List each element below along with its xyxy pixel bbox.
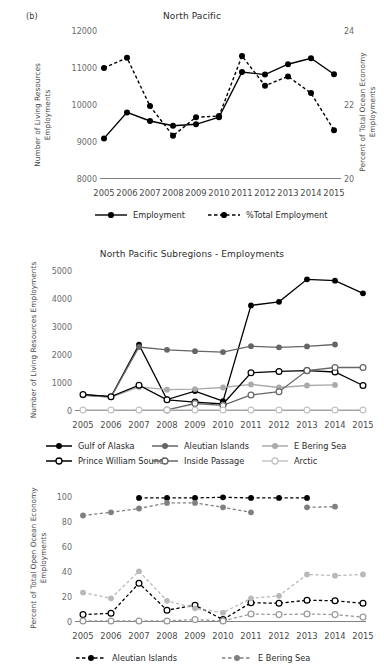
data-point xyxy=(80,618,86,624)
data-point xyxy=(192,495,198,501)
data-point xyxy=(360,600,366,606)
y-axis-title-percent-line2: Employments xyxy=(39,533,48,584)
data-point xyxy=(220,494,226,500)
ytick3-60: 60 xyxy=(62,543,72,552)
data-point xyxy=(332,382,338,388)
data-point xyxy=(276,299,282,305)
data-point xyxy=(192,407,198,413)
data-point xyxy=(248,595,254,601)
data-point xyxy=(192,605,198,611)
y-axis-left-title-line1: Number of Living Resources xyxy=(33,63,42,167)
xtick3-2010: 2010 xyxy=(212,631,233,641)
data-point xyxy=(285,61,291,67)
legend-marker-prince-william-sound xyxy=(56,458,62,464)
xtick-2008: 2008 xyxy=(162,188,183,198)
series-line-e-bering-sea-low- xyxy=(83,571,363,612)
xtick-2011: 2011 xyxy=(231,188,252,198)
ytick-right-24: 24 xyxy=(344,27,354,36)
data-point xyxy=(164,407,170,413)
chart-panel-percent: 100 80 60 40 20 0 Percent of Total Open … xyxy=(0,468,384,666)
ytick-2000: 2000 xyxy=(52,351,72,360)
data-point xyxy=(192,401,198,407)
legend-marker-pct-employment xyxy=(221,212,227,218)
xtick3-2012: 2012 xyxy=(268,631,289,641)
data-point xyxy=(360,365,366,371)
data-point xyxy=(262,72,268,78)
data-point xyxy=(164,618,170,624)
data-point xyxy=(308,55,314,61)
data-point xyxy=(108,618,114,624)
data-point xyxy=(331,71,337,77)
ytick-4000: 4000 xyxy=(52,295,72,304)
x-axis-ticks-3: 2005 2006 2007 2008 2009 2010 2011 2012 … xyxy=(72,631,373,641)
y-axis-right-title-line1: Percent of Total Ocean Economy xyxy=(358,52,367,172)
legend-north-pacific: Employment %Total Employment xyxy=(95,210,328,220)
data-point xyxy=(136,382,142,388)
legend-marker-arctic xyxy=(272,458,278,464)
data-point xyxy=(276,407,282,413)
data-point xyxy=(262,83,268,89)
xtick2-2010: 2010 xyxy=(212,420,233,430)
data-point xyxy=(220,504,226,510)
data-point xyxy=(332,278,338,284)
ytick-left-11000: 11000 xyxy=(72,64,97,73)
data-point xyxy=(248,382,254,388)
xtick2-2009: 2009 xyxy=(184,420,205,430)
legend-marker-gulf-of-alaska xyxy=(56,443,62,449)
data-point xyxy=(285,73,291,79)
data-point xyxy=(304,368,310,374)
y-axis-right-title-line2: Employments xyxy=(368,87,377,138)
ytick-5000: 5000 xyxy=(52,267,72,276)
data-point xyxy=(80,392,86,398)
legend-subregions: Gulf of Alaska Aleutian Islands E Bering… xyxy=(46,441,346,451)
data-point xyxy=(192,348,198,354)
data-point xyxy=(276,495,282,501)
xtick3-2006: 2006 xyxy=(100,631,121,641)
xtick2-2012: 2012 xyxy=(268,420,289,430)
data-point xyxy=(220,610,226,616)
data-point xyxy=(332,504,338,510)
xtick-2010: 2010 xyxy=(208,188,229,198)
xtick2-2008: 2008 xyxy=(156,420,177,430)
data-point xyxy=(304,504,310,510)
data-point xyxy=(108,595,114,601)
data-point xyxy=(80,590,86,596)
legend-marker-employment xyxy=(108,212,114,218)
x-axis-ticks-2: 2005 2006 2007 2008 2009 2010 2011 2012 … xyxy=(72,420,373,430)
legend-subregions-row2: Prince William Sound Inside Passage Arct… xyxy=(46,456,317,466)
legend-label-prince-william-sound: Prince William Sound xyxy=(78,456,164,466)
data-point xyxy=(164,387,170,393)
data-point xyxy=(308,90,314,96)
data-point xyxy=(170,133,176,139)
series-line-e-bering-sea xyxy=(83,384,335,397)
data-point xyxy=(164,500,170,506)
data-point xyxy=(332,573,338,579)
legend-label-e-bering-sea: E Bering Sea xyxy=(294,441,346,451)
figure-page: (b) North Pacific 12000 11000 10000 9000… xyxy=(0,0,384,666)
series-group-3 xyxy=(80,494,366,623)
xtick3-2013: 2013 xyxy=(296,631,317,641)
legend-marker-aleutian-islands-pct xyxy=(88,655,94,661)
data-point xyxy=(332,407,338,413)
ytick-left-10000: 10000 xyxy=(72,101,97,110)
data-point xyxy=(304,597,310,603)
x-axis-ticks-1: 2005 2006 2007 2008 2009 2010 2011 2012 … xyxy=(93,188,344,198)
xtick2-2005: 2005 xyxy=(72,420,93,430)
data-point xyxy=(304,572,310,578)
data-point xyxy=(276,344,282,350)
plot-subregions: 5000 4000 3000 2000 1000 0 Number of Liv… xyxy=(0,240,384,468)
legend-label-arctic: Arctic xyxy=(294,456,317,466)
data-point xyxy=(248,392,254,398)
plot-north-pacific: 12000 11000 10000 9000 8000 24 22 20 Num… xyxy=(0,0,384,232)
ytick3-100: 100 xyxy=(57,493,72,502)
ytick-3000: 3000 xyxy=(52,323,72,332)
xtick-2005: 2005 xyxy=(93,188,114,198)
data-point xyxy=(147,118,153,124)
legend-label-employment: Employment xyxy=(133,210,186,220)
series-group-2 xyxy=(80,276,366,412)
data-point xyxy=(164,607,170,613)
series-line--total-employment xyxy=(104,56,334,136)
data-point xyxy=(164,598,170,604)
ytick-left-12000: 12000 xyxy=(72,27,97,36)
data-point xyxy=(276,593,282,599)
